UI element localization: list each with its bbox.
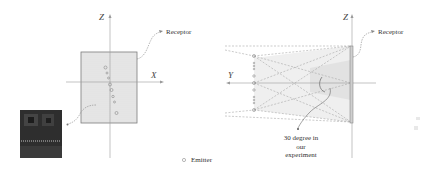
legend-emitter-label: Emitter bbox=[191, 156, 212, 164]
diagram-canvas bbox=[0, 0, 426, 173]
inset-photo bbox=[20, 110, 62, 158]
legend-emitter-icon bbox=[182, 158, 185, 161]
angle-note-line-1: 30 degree in bbox=[281, 134, 321, 143]
left-receptor-leader bbox=[137, 32, 160, 59]
angle-note-line-2: our bbox=[281, 143, 321, 152]
left-view bbox=[20, 14, 164, 158]
left-x-label: X bbox=[151, 70, 157, 80]
angle-note-line-3: experiment bbox=[281, 151, 321, 160]
right-z-label: Z bbox=[343, 12, 348, 22]
right-y-label: Y bbox=[228, 70, 233, 80]
left-receptor-label: Receptor bbox=[166, 28, 191, 36]
angle-note: 30 degree in our experiment bbox=[281, 134, 321, 160]
faint-marks bbox=[414, 117, 420, 130]
left-z-label: Z bbox=[99, 12, 104, 22]
right-receptor-bar bbox=[350, 46, 353, 123]
right-receptor-label: Receptor bbox=[378, 28, 403, 36]
right-receptor-leader bbox=[353, 32, 372, 57]
